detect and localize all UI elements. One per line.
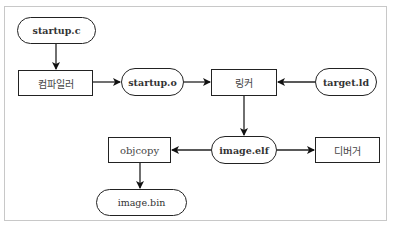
node-label: objcopy — [120, 145, 159, 156]
node-debugger: 디버거 — [315, 137, 380, 163]
node-label: image.bin — [118, 197, 166, 208]
node-label: 링커 — [235, 75, 253, 90]
node-target-ld: target.ld — [315, 68, 377, 96]
node-image-bin: image.bin — [96, 189, 187, 216]
node-startup-c: startup.c — [17, 17, 96, 44]
node-objcopy: objcopy — [108, 137, 171, 163]
node-label: 컴파일러 — [38, 76, 74, 91]
node-startup-o: startup.o — [121, 68, 184, 96]
node-linker: 링커 — [211, 69, 277, 96]
node-label: image.elf — [219, 145, 269, 156]
node-label: startup.o — [128, 77, 176, 88]
node-label: 디버거 — [334, 143, 361, 158]
node-label: startup.c — [33, 25, 81, 36]
node-label: target.ld — [323, 77, 369, 88]
node-compiler: 컴파일러 — [18, 70, 93, 96]
node-image-elf: image.elf — [211, 136, 277, 164]
